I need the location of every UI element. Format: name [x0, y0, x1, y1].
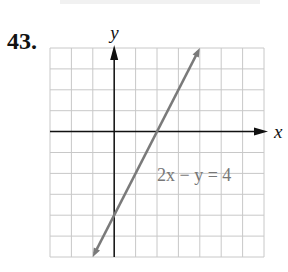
graph: xy2x − y = 4 [0, 0, 288, 272]
y-axis-arrow-icon [110, 45, 118, 60]
x-axis-label: x [273, 121, 283, 142]
line-arrow-end-icon [193, 48, 200, 58]
equation-label: 2x − y = 4 [157, 165, 231, 185]
line-arrow-start-icon [93, 247, 100, 257]
y-axis-label: y [108, 22, 119, 43]
x-axis-arrow-icon [254, 128, 268, 136]
